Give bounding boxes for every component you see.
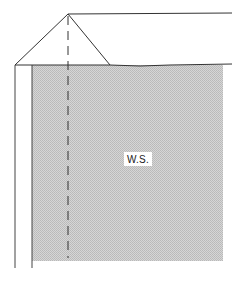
region-label: W.S. [124,152,152,166]
gable-triangle [15,14,110,65]
diagram-canvas [0,0,243,283]
ridge-line [68,13,232,14]
